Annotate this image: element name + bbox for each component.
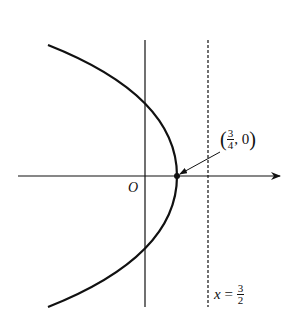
- directrix-label: x = 32: [214, 283, 244, 306]
- vertex-label: (34, 0): [220, 128, 256, 151]
- paren-close: ): [249, 128, 256, 150]
- fraction-denominator: 2: [238, 295, 244, 306]
- origin-label: O: [128, 180, 138, 196]
- equals-sign: =: [221, 286, 237, 302]
- vertex-point: [174, 173, 180, 179]
- directrix-var: x: [214, 286, 221, 302]
- parabola-diagram: [0, 0, 295, 324]
- vertex-pointer-arrow: [180, 152, 220, 174]
- separator: ,: [234, 131, 242, 147]
- fraction-denominator: 4: [228, 140, 234, 151]
- paren-open: (: [220, 128, 227, 150]
- directrix-fraction: 32: [237, 283, 245, 306]
